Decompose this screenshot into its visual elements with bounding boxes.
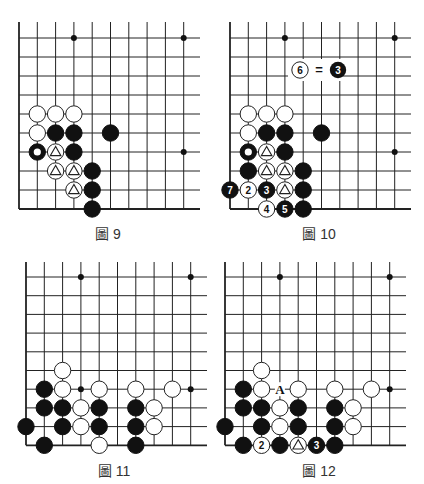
go-diagrams: 圖 9723456=3圖 10圖 11A23圖 12	[0, 0, 424, 484]
white-stone	[240, 106, 256, 122]
star-point	[78, 274, 84, 280]
star-point	[78, 386, 84, 392]
move-number: 2	[259, 440, 265, 451]
black-stone	[36, 400, 52, 416]
black-stone	[18, 418, 34, 434]
white-stone	[327, 381, 343, 397]
black-stone: 7	[222, 182, 238, 198]
black-stone	[84, 201, 100, 217]
white-stone	[253, 381, 269, 397]
move-number: 4	[264, 204, 270, 215]
white-stone	[345, 418, 361, 434]
black-stone	[290, 418, 306, 434]
black-stone	[235, 437, 251, 453]
svg-text:=: =	[315, 62, 323, 77]
move-equivalence-note: 6=3	[288, 59, 346, 81]
board-grid	[225, 262, 406, 445]
black-stone	[295, 201, 311, 217]
black-stone	[29, 144, 45, 160]
white-stone	[146, 400, 162, 416]
black-stone	[240, 144, 256, 160]
move-number: 3	[314, 440, 320, 451]
white-stone	[240, 125, 256, 141]
black-stone	[84, 163, 100, 179]
star-point	[387, 274, 393, 280]
white-stone	[164, 381, 180, 397]
black-stone	[295, 182, 311, 198]
white-stone	[29, 106, 45, 122]
black-stone	[235, 400, 251, 416]
black-stone	[240, 163, 256, 179]
move-number: 3	[264, 185, 270, 196]
board-grid	[19, 22, 200, 209]
white-stone	[128, 381, 144, 397]
black-stone	[128, 400, 144, 416]
star-point	[387, 386, 393, 392]
fig12-diagram: A23圖 12	[217, 262, 406, 479]
white-stone	[272, 418, 288, 434]
black-stone	[327, 437, 343, 453]
white-stone	[345, 400, 361, 416]
last-move-ring-icon	[34, 148, 41, 155]
last-move-ring-icon	[245, 148, 252, 155]
board-grid	[230, 22, 411, 209]
star-point	[282, 35, 288, 41]
white-stone	[146, 418, 162, 434]
black-stone	[277, 144, 293, 160]
black-stone	[102, 125, 118, 141]
white-stone	[66, 106, 82, 122]
white-stone	[258, 163, 274, 179]
white-stone	[272, 400, 288, 416]
white-stone	[258, 106, 274, 122]
white-stone	[73, 400, 89, 416]
figure-caption: 圖 11	[98, 463, 131, 479]
white-stone	[47, 144, 63, 160]
star-point	[277, 274, 283, 280]
black-stone	[47, 125, 63, 141]
white-stone	[91, 381, 107, 397]
board-grid	[26, 262, 207, 445]
white-stone	[66, 163, 82, 179]
black-stone	[36, 381, 52, 397]
white-stone	[54, 362, 70, 378]
fig9-diagram: 圖 9	[19, 22, 200, 242]
fig10-diagram: 723456=3圖 10	[222, 22, 411, 242]
white-stone	[91, 437, 107, 453]
star-point	[181, 35, 187, 41]
star-point	[392, 35, 398, 41]
move-number: 7	[227, 185, 233, 196]
black-stone	[66, 144, 82, 160]
black-stone	[277, 125, 293, 141]
figure-caption: 圖 9	[95, 226, 121, 242]
white-stone	[29, 125, 45, 141]
fig11-diagram: 圖 11	[18, 262, 207, 479]
white-stone	[290, 381, 306, 397]
white-stone	[66, 182, 82, 198]
figure-caption: 圖 10	[302, 226, 336, 242]
black-stone	[36, 437, 52, 453]
white-stone	[54, 381, 70, 397]
star-point	[188, 274, 194, 280]
black-stone	[54, 400, 70, 416]
star-point	[71, 35, 77, 41]
black-stone	[272, 437, 288, 453]
black-stone	[128, 418, 144, 434]
black-stone	[235, 381, 251, 397]
black-stone	[295, 163, 311, 179]
white-stone	[277, 163, 293, 179]
black-stone	[66, 125, 82, 141]
white-stone: 4	[258, 201, 274, 217]
move-number: 5	[282, 204, 288, 215]
black-stone: 5	[277, 201, 293, 217]
black-stone	[290, 400, 306, 416]
white-stone	[277, 106, 293, 122]
white-stone: 2	[240, 182, 256, 198]
svg-text:6: 6	[297, 65, 303, 76]
black-stone	[128, 437, 144, 453]
white-stone	[290, 437, 306, 453]
star-point	[188, 386, 194, 392]
white-stone	[73, 418, 89, 434]
white-stone	[47, 163, 63, 179]
star-point	[181, 149, 187, 155]
white-stone	[277, 182, 293, 198]
